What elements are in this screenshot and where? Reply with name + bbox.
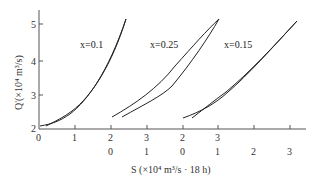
x-tick-label-row2: 1 xyxy=(215,146,220,157)
y-tick-label: 5 xyxy=(31,19,36,30)
x-tick-label-row2: 2 xyxy=(251,146,256,157)
series-x-0.1: x=0.1 xyxy=(40,19,126,126)
x-tick-label: 0 xyxy=(36,132,41,143)
y-tick-label: 3 xyxy=(31,90,36,101)
x-tick-label: 2 xyxy=(180,132,185,143)
y-ticks: 2 3 4 5 xyxy=(31,19,43,134)
y-tick-label: 4 xyxy=(31,56,36,67)
x-tick-label-row2: 0 xyxy=(180,146,185,157)
series-x-0.25: x=0.25 xyxy=(112,19,219,117)
y-axis-title: Q'(×10⁴ m³/s) xyxy=(13,55,25,110)
x-tick-label-row2: 1 xyxy=(144,146,149,157)
x-tick-label-row2: 3 xyxy=(287,146,292,157)
x-tick-label: 2 xyxy=(108,132,113,143)
x-tick-label: 1 xyxy=(72,132,77,143)
series-label: x=0.15 xyxy=(224,39,252,50)
x-ticks: 0 1 2 3 2 3 0 1 0 1 2 3 xyxy=(36,125,292,157)
series-x-0.15: x=0.15 xyxy=(183,21,297,118)
series-label: x=0.1 xyxy=(80,39,103,50)
x-tick-label: 3 xyxy=(215,132,220,143)
loop-rating-chart: 2 3 4 5 0 1 2 3 2 3 0 1 0 1 2 3 S (×10⁴ … xyxy=(0,0,313,183)
series-label: x=0.25 xyxy=(150,39,178,50)
x-tick-label-row2: 0 xyxy=(108,146,113,157)
x-axis-title: S (×10⁴ m³/s · 18 h) xyxy=(131,164,211,176)
x-tick-label: 3 xyxy=(144,132,149,143)
